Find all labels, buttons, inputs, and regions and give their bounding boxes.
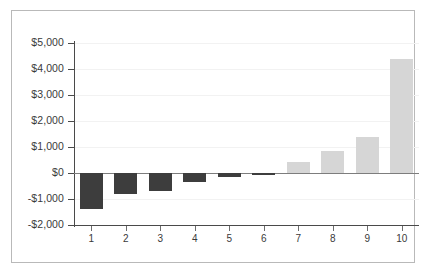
gridline xyxy=(74,95,419,96)
x-axis-tick-label: 2 xyxy=(111,233,141,244)
bar-5[interactable] xyxy=(218,173,241,177)
bar-2[interactable] xyxy=(114,173,137,194)
x-axis-tick-label: 6 xyxy=(249,233,279,244)
x-axis-tick-mark xyxy=(298,226,299,231)
x-axis-tick-label: 9 xyxy=(352,233,382,244)
x-axis-tick-mark xyxy=(229,226,230,231)
x-axis-tick-label: 1 xyxy=(76,233,106,244)
bar-1[interactable] xyxy=(80,173,103,209)
x-axis-tick-label: 7 xyxy=(283,233,313,244)
y-axis-tick-label: $3,000 xyxy=(31,88,64,100)
bar-9[interactable] xyxy=(356,137,379,173)
x-axis-tick-label: 4 xyxy=(180,233,210,244)
bar-6[interactable] xyxy=(252,173,275,175)
x-axis-tick-mark xyxy=(91,226,92,231)
y-axis-line xyxy=(74,41,75,227)
bar-4[interactable] xyxy=(183,173,206,182)
gridline xyxy=(74,121,419,122)
y-axis-tick-label: $5,000 xyxy=(31,36,64,48)
x-axis-tick-mark xyxy=(367,226,368,231)
bar-7[interactable] xyxy=(287,162,310,173)
bar-chart-figure: $5,000$4,000$3,000$2,000$1,000$0-$1,000-… xyxy=(0,0,426,274)
x-axis-tick-label: 8 xyxy=(318,233,348,244)
x-axis-tick-label: 10 xyxy=(387,233,417,244)
y-axis-tick-label: $2,000 xyxy=(31,114,64,126)
x-axis-tick-mark xyxy=(126,226,127,231)
y-axis-tick-label: $1,000 xyxy=(31,140,64,152)
x-axis-tick-mark xyxy=(264,226,265,231)
bar-3[interactable] xyxy=(149,173,172,191)
y-axis-tick-label: -$1,000 xyxy=(28,192,64,204)
x-axis-tick-mark xyxy=(160,226,161,231)
chart-frame: $5,000$4,000$3,000$2,000$1,000$0-$1,000-… xyxy=(11,10,415,263)
y-axis-tick-label: -$2,000 xyxy=(28,218,64,230)
x-axis-tick-mark xyxy=(402,226,403,231)
x-axis-tick-label: 3 xyxy=(145,233,175,244)
bar-8[interactable] xyxy=(321,151,344,173)
y-axis-tick-label: $0 xyxy=(52,166,64,178)
x-axis-tick-mark xyxy=(195,226,196,231)
gridline xyxy=(74,43,419,44)
x-axis-tick-label: 5 xyxy=(214,233,244,244)
gridline xyxy=(74,199,419,200)
bar-10[interactable] xyxy=(390,59,413,173)
x-axis-tick-mark xyxy=(333,226,334,231)
gridline xyxy=(74,69,419,70)
y-axis-tick-label: $4,000 xyxy=(31,62,64,74)
